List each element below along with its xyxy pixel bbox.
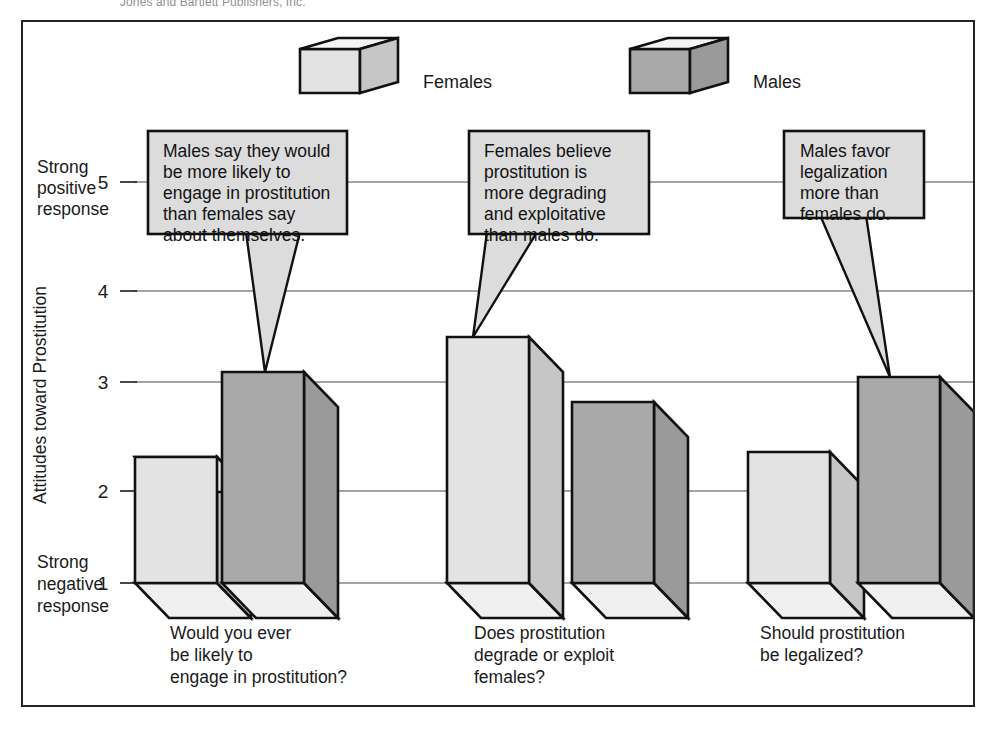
callout-2-line-3: more degrading (484, 183, 607, 203)
y-low-label-line-2: negative (37, 574, 103, 594)
y-high-label-line-3: response (37, 199, 109, 219)
legend-label-females: Females (423, 72, 492, 92)
bar-male-3[interactable] (858, 377, 974, 618)
male-box-side (690, 38, 728, 93)
bar-chart: Females Males (0, 0, 1004, 732)
y-tick-label-4: 4 (98, 281, 109, 302)
bar-group-3 (748, 377, 974, 618)
callout-1-line-2: be more likely to (163, 162, 290, 182)
bar-female-2-side (529, 337, 563, 618)
callout-1-line-3: engage in prostitution (163, 183, 330, 203)
callout-2-line-1: Females believe (484, 141, 611, 161)
bar-male-1[interactable] (222, 372, 338, 618)
callout-3[interactable]: Males favor legalization more than femal… (784, 131, 924, 224)
legend-item-males: Males (630, 38, 801, 93)
legend-label-males: Males (753, 72, 801, 92)
callout-3-line-3: more than (800, 183, 879, 203)
category-1-line-1: Would you ever (170, 623, 291, 643)
y-axis: 5 4 3 2 1 Strong positive response Stron… (30, 157, 137, 616)
y-high-label-line-2: positive (37, 178, 96, 198)
callout-1[interactable]: Males say they would be more likely to e… (148, 131, 347, 245)
category-3-line-2: be legalized? (760, 645, 863, 665)
figure-stage: Jones and Bartlett Publishers, Inc. Fema… (0, 0, 1004, 732)
category-labels: Would you ever be likely to engage in pr… (170, 623, 905, 687)
y-axis-title: Attitudes toward Prostitution (30, 286, 50, 504)
category-label-2: Does prostitution degrade or exploit fem… (474, 623, 614, 687)
callout-3-line-2: legalization (800, 162, 888, 182)
category-1-line-2: be likely to (170, 645, 253, 665)
y-low-label-line-3: response (37, 596, 109, 616)
female-box-front (300, 49, 360, 93)
bar-female-2-front (447, 337, 529, 583)
bar-female-3[interactable] (748, 452, 864, 618)
legend: Females Males (300, 38, 801, 93)
male-box-front (630, 49, 690, 93)
y-tick-label-3: 3 (98, 372, 109, 393)
bar-group-2 (447, 337, 688, 618)
callout-2[interactable]: Females believe prostitution is more deg… (469, 131, 649, 245)
bar-female-3-front (748, 452, 830, 583)
bar-female-1-front (135, 457, 217, 583)
category-label-3: Should prostitution be legalized? (760, 623, 905, 665)
y-tick-label-5: 5 (98, 172, 109, 193)
category-2-line-2: degrade or exploit (474, 645, 614, 665)
callout-2-line-5: than males do. (484, 225, 599, 245)
bar-female-2[interactable] (447, 337, 563, 618)
category-3-line-1: Should prostitution (760, 623, 905, 643)
callout-2-line-4: and exploitative (484, 204, 606, 224)
bar-male-3-front (858, 377, 940, 583)
category-2-line-1: Does prostitution (474, 623, 605, 643)
bar-male-2-side (654, 402, 688, 618)
category-1-line-3: engage in prostitution? (170, 667, 347, 687)
female-box-side (360, 38, 398, 93)
callout-2-pointer (473, 232, 537, 337)
category-label-1: Would you ever be likely to engage in pr… (170, 623, 347, 687)
bar-male-2[interactable] (572, 402, 688, 618)
y-high-label-line-1: Strong (37, 157, 89, 177)
y-low-label-line-1: Strong (37, 552, 89, 572)
callout-1-line-1: Males say they would (163, 141, 330, 161)
bar-male-2-front (572, 402, 654, 583)
callout-1-line-4: than females say (163, 204, 296, 224)
callout-3-line-4: females do. (800, 204, 890, 224)
category-2-line-3: females? (474, 667, 545, 687)
bar-male-1-front (222, 372, 304, 583)
callout-1-line-5: about themselves. (163, 225, 305, 245)
callout-1-pointer (246, 232, 300, 372)
callout-3-pointer (820, 215, 890, 377)
callout-3-line-1: Males favor (800, 141, 891, 161)
bar-male-1-side (304, 372, 338, 618)
bar-group-1 (135, 372, 338, 618)
callout-2-line-2: prostitution is (484, 162, 587, 182)
y-tick-label-2: 2 (98, 481, 109, 502)
legend-item-females: Females (300, 38, 492, 93)
bar-male-3-side (940, 377, 974, 618)
